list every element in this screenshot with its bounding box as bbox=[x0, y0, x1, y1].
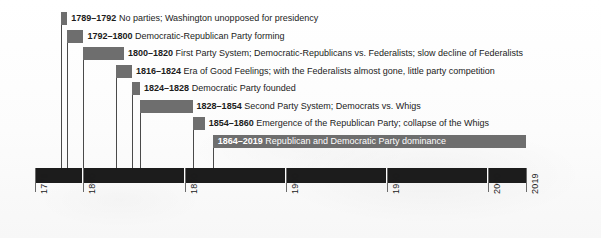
era-year-range: 1854–1860 bbox=[209, 118, 254, 128]
axis-tick bbox=[35, 168, 36, 192]
era-year-range: 1864–2019 bbox=[218, 136, 263, 146]
axis-bar bbox=[35, 168, 526, 183]
era-description: Second Party System; Democrats vs. Whigs bbox=[242, 101, 421, 111]
axis-tick bbox=[83, 168, 84, 192]
era-bar bbox=[83, 47, 123, 60]
era-label: 1854–1860 Emergence of the Republican Pa… bbox=[209, 117, 489, 130]
era-bar bbox=[193, 117, 205, 130]
era-row: 1800–1820 First Party System; Democratic… bbox=[0, 47, 601, 60]
era-label: 1828–1854 Second Party System; Democrats… bbox=[197, 100, 421, 113]
era-year-range: 1792–1800 bbox=[87, 31, 132, 41]
era-label: 1792–1800 Democratic-Republican Party fo… bbox=[87, 30, 284, 43]
era-label: 1789–1792 No parties; Washington unoppos… bbox=[71, 12, 318, 25]
axis-tick-label: 1800 bbox=[87, 173, 97, 194]
era-row: 1864–2019 Republican and Democratic Part… bbox=[0, 135, 601, 148]
era-row: 1824–1828 Democratic Party founded bbox=[0, 82, 601, 95]
axis-tick-label: 2000 bbox=[492, 173, 502, 194]
era-bar bbox=[67, 30, 83, 43]
axis-tick bbox=[286, 168, 287, 192]
axis-tick-label: 1950 bbox=[391, 173, 401, 194]
era-row: 1828–1854 Second Party System; Democrats… bbox=[0, 100, 601, 113]
era-label: 1824–1828 Democratic Party founded bbox=[144, 82, 296, 95]
party-systems-timeline-chart: 1789–1792 No parties; Washington unoppos… bbox=[0, 0, 601, 238]
era-description: Emergence of the Republican Party; colla… bbox=[254, 118, 489, 128]
axis-tick-label: 1900 bbox=[290, 173, 300, 194]
era-year-range: 1828–1854 bbox=[197, 101, 242, 111]
axis-tick bbox=[387, 168, 388, 192]
era-year-range: 1816–1824 bbox=[136, 66, 181, 76]
era-bar bbox=[132, 82, 140, 95]
era-year-range: 1824–1828 bbox=[144, 83, 189, 93]
era-description: Era of Good Feelings; with the Federalis… bbox=[181, 66, 495, 76]
axis-tick-label: 1776 bbox=[39, 173, 49, 194]
era-bar bbox=[61, 12, 67, 25]
era-year-range: 1789–1792 bbox=[71, 13, 116, 23]
era-year-range: 1800–1820 bbox=[128, 48, 173, 58]
era-description: No parties; Washington unopposed for pre… bbox=[116, 13, 318, 23]
era-description: Democratic-Republican Party forming bbox=[133, 31, 285, 41]
axis-tick bbox=[488, 168, 489, 192]
era-bar bbox=[116, 65, 132, 78]
axis-tick bbox=[526, 168, 527, 192]
era-bar bbox=[140, 100, 193, 113]
axis-tick-label: 1850 bbox=[189, 173, 199, 194]
axis-tick-label: 2019 bbox=[530, 173, 540, 194]
era-leader-line bbox=[213, 148, 214, 169]
era-row: 1789–1792 No parties; Washington unoppos… bbox=[0, 12, 601, 25]
era-row: 1816–1824 Era of Good Feelings; with the… bbox=[0, 65, 601, 78]
era-label: 1816–1824 Era of Good Feelings; with the… bbox=[136, 65, 495, 78]
era-label: 1800–1820 First Party System; Democratic… bbox=[128, 47, 523, 60]
era-description: Democratic Party founded bbox=[189, 83, 296, 93]
era-row: 1854–1860 Emergence of the Republican Pa… bbox=[0, 117, 601, 130]
era-row: 1792–1800 Democratic-Republican Party fo… bbox=[0, 30, 601, 43]
era-description: Republican and Democratic Party dominanc… bbox=[263, 136, 446, 146]
era-label: 1864–2019 Republican and Democratic Part… bbox=[218, 135, 446, 148]
axis-tick bbox=[185, 168, 186, 192]
era-description: First Party System; Democratic-Republica… bbox=[173, 48, 523, 58]
